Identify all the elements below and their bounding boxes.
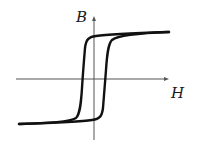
hysteresis-plot: [0, 0, 197, 150]
b-axis-label: B: [76, 10, 87, 25]
h-axis-arrow-icon: [164, 77, 169, 81]
hysteresis-diagram: B H: [0, 0, 197, 150]
b-axis-arrow-icon: [92, 16, 96, 21]
h-axis-label: H: [171, 86, 184, 101]
